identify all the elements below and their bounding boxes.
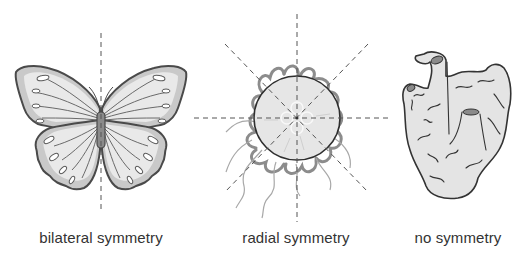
sponge-osculum-center	[463, 109, 479, 115]
radial-symmetry-label: radial symmetry	[226, 229, 366, 246]
no-symmetry-label: no symmetry	[398, 229, 518, 246]
sponge-illustration	[0, 0, 525, 230]
bilateral-symmetry-label: bilateral symmetry	[21, 229, 181, 246]
symmetry-diagram: bilateral symmetry radial symmetry no sy…	[0, 0, 525, 264]
